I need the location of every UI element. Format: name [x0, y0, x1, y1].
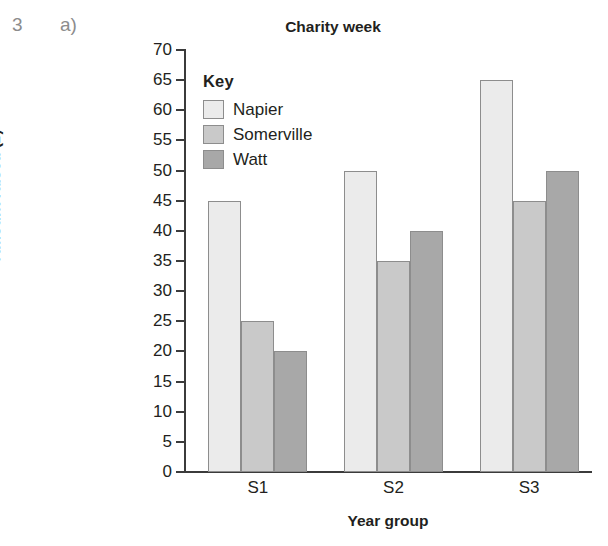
y-tick-label: 45 [153, 191, 172, 211]
y-tick-mark [176, 230, 185, 232]
bar-s3-napier [480, 80, 513, 472]
bar-s1-somerville [241, 321, 274, 472]
legend-rows: NapierSomervilleWatt [203, 97, 312, 172]
y-tick-label: 10 [153, 402, 172, 422]
bar-s3-watt [546, 171, 579, 472]
y-tick-label: 25 [153, 311, 172, 331]
y-tick-mark [176, 290, 185, 292]
y-tick-mark [176, 320, 185, 322]
x-axis-label-s3: S3 [519, 478, 540, 498]
y-tick-mark [176, 471, 185, 473]
y-tick-label: 15 [153, 372, 172, 392]
bar-s3-somerville [513, 201, 546, 472]
y-tick-mark [176, 200, 185, 202]
y-tick-mark [176, 260, 185, 262]
y-tick-mark [176, 49, 185, 51]
legend-swatch-napier [203, 100, 224, 119]
y-tick-mark [176, 170, 185, 172]
legend-item-watt: Watt [203, 147, 312, 172]
y-tick-label: 40 [153, 221, 172, 241]
legend-label-napier: Napier [233, 100, 283, 120]
bar-s2-napier [344, 171, 377, 472]
y-tick-mark [176, 350, 185, 352]
x-axis-label-s1: S1 [247, 478, 268, 498]
y-tick-mark [176, 79, 185, 81]
y-tick-label: 60 [153, 100, 172, 120]
y-tick-label: 65 [153, 70, 172, 90]
legend-swatch-somerville [203, 125, 224, 144]
x-axis-label-s2: S2 [383, 478, 404, 498]
bar-s1-napier [208, 201, 241, 472]
y-tick-label: 70 [153, 40, 172, 60]
y-tick-label: 20 [153, 341, 172, 361]
y-tick-label: 30 [153, 281, 172, 301]
y-tick-mark [176, 411, 185, 413]
y-tick-label: 35 [153, 251, 172, 271]
y-axis-title: Amount raised (£) [0, 129, 4, 261]
y-axis-ticks: 0510152025303540455055606570 [185, 50, 186, 472]
y-tick-label: 50 [153, 161, 172, 181]
legend-swatch-watt [203, 150, 224, 169]
bar-s2-somerville [377, 261, 410, 472]
chart-title: Charity week [285, 18, 381, 36]
y-tick-label: 5 [163, 432, 172, 452]
y-tick-label: 0 [163, 462, 172, 482]
y-tick-mark [176, 139, 185, 141]
y-tick-mark [176, 381, 185, 383]
bar-s1-watt [274, 351, 307, 472]
y-tick-label: 55 [153, 130, 172, 150]
legend-label-somerville: Somerville [233, 125, 312, 145]
legend-label-watt: Watt [233, 150, 267, 170]
question-number: 3 [12, 14, 23, 36]
bar-s2-watt [410, 231, 443, 472]
chart-legend: Key NapierSomervilleWatt [203, 72, 312, 172]
y-tick-mark [176, 109, 185, 111]
legend-item-somerville: Somerville [203, 122, 312, 147]
legend-title: Key [203, 72, 312, 91]
question-part-label: a) [60, 14, 77, 36]
x-axis-title: Year group [348, 512, 429, 530]
legend-item-napier: Napier [203, 97, 312, 122]
y-tick-mark [176, 441, 185, 443]
